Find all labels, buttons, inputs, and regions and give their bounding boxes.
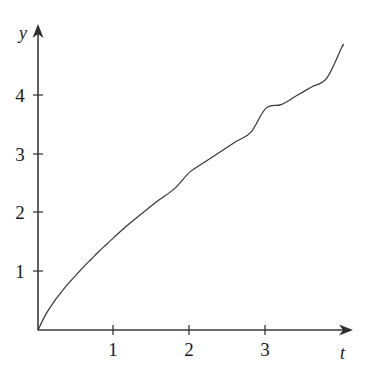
y-tick-label-4: 4 bbox=[10, 86, 30, 105]
y-tick-label-2: 2 bbox=[10, 203, 30, 222]
x-axis-label: t bbox=[340, 344, 345, 362]
y-tick-label-1: 1 bbox=[10, 262, 30, 281]
x-tick-label-3: 3 bbox=[255, 340, 275, 359]
chart-figure: 1 2 3 1 2 3 4 y t bbox=[0, 0, 365, 376]
y-axis-label: y bbox=[19, 24, 27, 42]
x-tick-label-2: 2 bbox=[179, 340, 199, 359]
data-curve bbox=[38, 44, 343, 330]
plot-canvas bbox=[0, 0, 365, 376]
y-tick-label-3: 3 bbox=[10, 145, 30, 164]
x-tick-label-1: 1 bbox=[103, 340, 123, 359]
